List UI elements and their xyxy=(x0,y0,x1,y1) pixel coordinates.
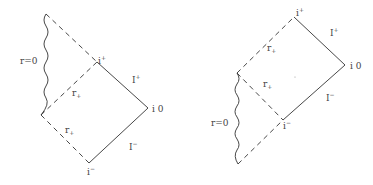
right-horizon-lower xyxy=(237,73,283,120)
left-scri-plus-line xyxy=(97,62,148,108)
left-singularity-wavy-line xyxy=(41,14,48,115)
left-label-horizon-lower: r+ xyxy=(65,126,74,136)
right-singularity-wavy-line xyxy=(235,73,239,164)
left-label-scri-plus: I+ xyxy=(132,74,141,85)
left-label-i-plus: i+ xyxy=(98,55,106,66)
left-scri-minus-line xyxy=(89,108,148,163)
left-label-i-zero: i 0 xyxy=(152,105,163,114)
right-label-horizon-upper: r+ xyxy=(267,44,276,54)
right-label-i-plus: i+ xyxy=(296,7,304,18)
penrose-diagrams xyxy=(0,0,373,185)
left-label-scri-minus: I− xyxy=(129,141,138,152)
right-horizon-upper xyxy=(237,17,294,73)
right-label-scri-minus: I− xyxy=(326,92,335,103)
right-label-i-zero: i 0 xyxy=(350,62,361,71)
right-scri-minus-line xyxy=(283,65,345,120)
right-center-dot xyxy=(294,76,295,77)
left-dashed-top-edge xyxy=(46,14,97,62)
left-horizon-lower xyxy=(41,115,89,163)
left-horizon-upper xyxy=(41,62,97,115)
right-label-i-minus: i− xyxy=(283,120,291,131)
left-label-r0: r=0 xyxy=(20,57,38,66)
left-label-i-minus: i− xyxy=(87,166,95,177)
right-penrose-diagram xyxy=(235,17,345,164)
right-label-horizon-lower: r+ xyxy=(263,80,272,90)
left-label-horizon-upper: r+ xyxy=(72,89,81,99)
right-label-scri-plus: I+ xyxy=(330,27,339,38)
right-dashed-bottom-edge xyxy=(238,120,283,164)
right-scri-plus-line xyxy=(294,17,345,65)
right-label-r0: r=0 xyxy=(211,119,229,128)
